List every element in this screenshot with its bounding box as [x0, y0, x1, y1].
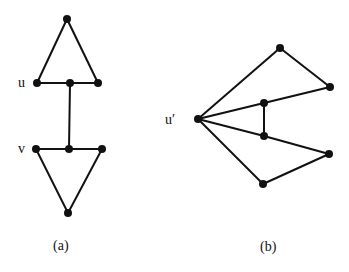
graph-vertex [63, 15, 71, 23]
graph-edge [68, 149, 102, 213]
graph-edge [37, 19, 67, 83]
graph-vertex [326, 83, 334, 91]
graph-drawing [0, 0, 349, 272]
graph-vertex [260, 99, 268, 107]
graph-edge [280, 48, 330, 87]
graph-edge [198, 119, 263, 184]
vertex-label-u: u [18, 76, 25, 90]
graph-edge [67, 19, 98, 83]
graph-vertex [32, 145, 40, 153]
caption-a: (a) [53, 239, 69, 253]
graph-vertex [260, 132, 268, 140]
graph-edge [264, 136, 329, 154]
graph-vertex [64, 209, 72, 217]
graph-vertex [98, 145, 106, 153]
graph-edge [264, 87, 330, 103]
graph-vertex [325, 150, 333, 158]
graph-figure: u v u′ (a) (b) [0, 0, 349, 272]
graph-vertex [94, 79, 102, 87]
graph-vertex [65, 145, 73, 153]
caption-b: (b) [260, 240, 276, 254]
graph-vertex [66, 79, 74, 87]
vertex-label-v: v [18, 142, 25, 156]
vertex-label-u-prime: u′ [165, 113, 175, 127]
graph-edge [36, 149, 68, 213]
graph-vertex [33, 79, 41, 87]
graph-vertex [194, 115, 202, 123]
graph-vertex [259, 180, 267, 188]
graph-edge [263, 154, 329, 184]
graph-vertex [276, 44, 284, 52]
graph-edge [69, 83, 70, 149]
